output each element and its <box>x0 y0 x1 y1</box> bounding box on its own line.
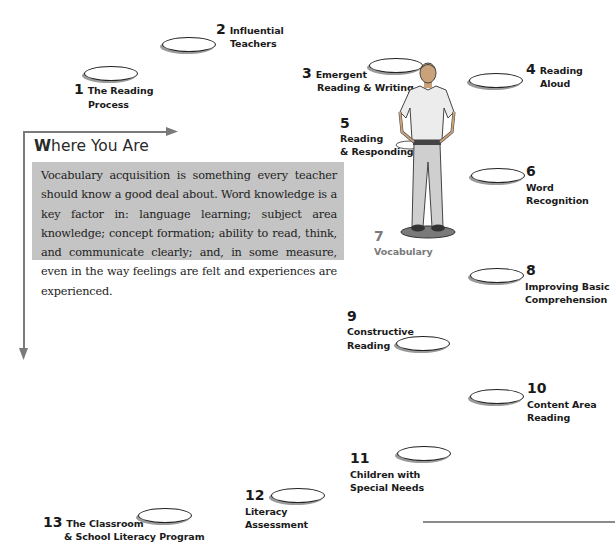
chapter-7-number: 7 <box>374 229 384 244</box>
chapter-3-label: Emergent <box>316 69 367 80</box>
chapter-2-label-2: Teachers <box>230 37 276 50</box>
chapter-4-number: 4 <box>526 61 536 77</box>
chapter-1-number: 1 <box>74 81 84 97</box>
chapter-13-label-2: & School Literacy Program <box>64 530 204 543</box>
chapter-6-label-2: Recognition <box>526 194 589 207</box>
arrow-right-icon <box>166 127 178 137</box>
chapter-9-oval[interactable] <box>396 336 450 351</box>
chapter-6-label: Word <box>526 181 554 194</box>
chapter-10-number: 10 <box>527 381 546 396</box>
chapter-2-label: Influential <box>230 25 284 36</box>
chapter-2-number: 2 <box>216 21 226 37</box>
divider-line <box>423 521 615 523</box>
chapter-12-number: 12 <box>245 488 264 503</box>
chapter-8-oval[interactable] <box>470 268 524 283</box>
chapter-8-label-2: Comprehension <box>525 293 607 306</box>
chapter-1-label: The Reading <box>88 85 154 96</box>
arrow-down-icon <box>19 348 29 360</box>
chapter-11-number: 11 <box>350 451 369 466</box>
chapter-9-label: Constructive <box>347 325 414 338</box>
chapter-5-label-2: & Responding <box>340 145 414 158</box>
top-arrow-line <box>23 131 168 133</box>
chapter-9-number: 9 <box>347 309 357 324</box>
chapter-11-oval[interactable] <box>397 446 451 461</box>
chapter-2-oval[interactable] <box>162 37 216 52</box>
chapter-10-label-2: Reading <box>527 411 570 424</box>
chapter-6-number: 6 <box>526 164 536 179</box>
chapter-12-label-2: Assessment <box>245 518 308 531</box>
chapter-4-oval[interactable] <box>469 73 523 88</box>
description-box: Vocabulary acquisition is something ever… <box>32 162 344 260</box>
chapter-8-label: Improving Basic <box>525 280 609 293</box>
chapter-10-oval[interactable] <box>470 389 524 404</box>
chapter-6-oval[interactable] <box>471 168 525 183</box>
chapter-1-label-2: Process <box>88 98 129 111</box>
left-arrow-line <box>23 131 25 353</box>
chapter-13-number: 13 <box>43 514 62 530</box>
chapter-10-label: Content Area <box>527 398 597 411</box>
chapter-13-label: The Classroom <box>66 518 143 529</box>
chapter-7-label: Vocabulary <box>374 245 433 258</box>
chapter-9-label-2: Reading <box>347 339 390 352</box>
chapter-11-label-2: Special Needs <box>350 481 424 494</box>
chapter-8-number: 8 <box>526 263 536 278</box>
chapter-12-label: Literacy <box>245 505 287 518</box>
chapter-4-label: Reading <box>540 65 583 76</box>
description-text: Vocabulary acquisition is something ever… <box>41 166 337 301</box>
chapter-12-oval[interactable] <box>271 488 325 503</box>
chapter-5-number: 5 <box>340 116 350 131</box>
chapter-11-label: Children with <box>350 468 420 481</box>
where-you-are-title: Where You Are <box>34 137 149 155</box>
chapter-5-label: Reading <box>340 132 383 145</box>
chapter-13-oval[interactable] <box>138 508 192 523</box>
chapter-3-number: 3 <box>302 65 312 81</box>
chapter-4-label-2: Aloud <box>540 77 570 90</box>
chapter-1-oval[interactable] <box>84 66 138 81</box>
